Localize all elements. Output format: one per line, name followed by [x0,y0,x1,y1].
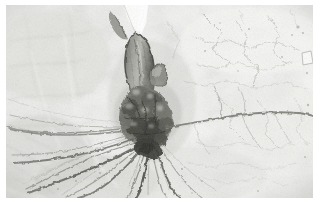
specimen-photograph [6,5,313,198]
vignette [6,5,313,198]
fossil-specimen-illustration [6,5,313,198]
photo-frame: Grayscale close-up photograph of a fossi… [0,0,320,208]
